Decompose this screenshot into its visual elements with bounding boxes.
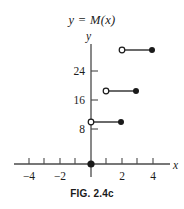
x-tick-label-neg4: −4 [23,170,35,182]
x-tick-label-4: 4 [150,170,156,182]
segment-1-filled-endpoint [118,119,124,125]
segment-3-open-endpoint [119,47,125,53]
y-tick-label-8: 8 [79,123,85,135]
step-function-plot: −4 −2 2 4 8 16 24 [0,0,184,209]
y-tick-label-24: 24 [74,65,86,77]
step-segment-1 [88,119,124,125]
segment-3-filled-endpoint [149,47,155,53]
x-tick-label-2: 2 [119,170,125,182]
x-tick-label-neg2: −2 [54,170,66,182]
step-segment-3 [119,47,155,53]
segment-2-filled-endpoint [133,88,139,94]
origin-point [87,160,94,167]
step-segment-2 [103,88,139,94]
figure-container: y = M(x) y x −4 −2 2 4 [0,0,184,209]
y-tick-label-16: 16 [74,94,86,106]
y-axis-group: 8 16 24 [74,44,99,177]
segment-1-open-endpoint [88,119,94,125]
segment-2-open-endpoint [103,88,109,94]
figure-caption: FIG. 2.4c [0,188,184,199]
